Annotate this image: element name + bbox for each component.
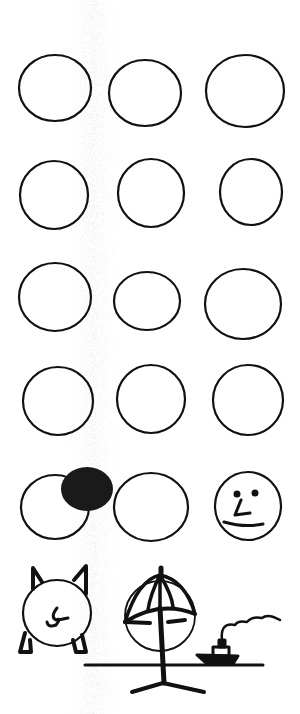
circle-r5c2	[114, 473, 188, 541]
circle-r1c2	[109, 60, 181, 126]
circle-r2c3	[220, 159, 282, 225]
paper-smudge	[68, 0, 118, 714]
circle-r4c2	[117, 365, 185, 433]
sketch-canvas	[0, 0, 300, 714]
circle-r3c2	[114, 272, 180, 330]
circle-grid	[19, 55, 284, 541]
circle-r1c3	[206, 55, 284, 127]
circle-r5c3	[215, 472, 281, 540]
beach-umbrella	[125, 568, 204, 692]
circle-r4c3	[213, 365, 283, 435]
circle-r2c2	[118, 159, 184, 227]
circle-r3c3	[205, 269, 281, 339]
dark-blob	[61, 467, 113, 511]
steamboat	[197, 616, 280, 664]
face-doodle	[224, 491, 263, 526]
